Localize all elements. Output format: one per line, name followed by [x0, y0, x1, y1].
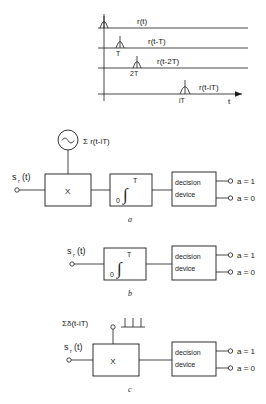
decision-device-label-line1: decision	[175, 179, 201, 186]
trace-signal-label: r(t-iT)	[199, 83, 219, 92]
input-label: s	[64, 342, 69, 352]
timing-trace-0: r(t)	[98, 16, 248, 28]
output-label-1: a = 1	[237, 177, 256, 186]
decision-device-block[interactable]	[172, 172, 216, 206]
input-label: s	[67, 246, 72, 256]
time-axis-label: t	[228, 97, 231, 106]
integrator-lower-limit: 0	[110, 271, 114, 278]
time-axis-arrowhead	[235, 91, 242, 97]
output-terminal-0[interactable]	[228, 270, 232, 274]
input-label-subscript: r	[70, 348, 72, 354]
diagram-b: s r (t) ∫ T 0 decision device a = 1 a = …	[67, 246, 256, 298]
output-label-1: a = 1	[237, 347, 256, 356]
output-label-0: a = 0	[237, 364, 256, 373]
integrator-lower-limit: 0	[116, 197, 120, 204]
subfigure-caption-a: a	[128, 215, 132, 224]
output-label-1: a = 1	[237, 251, 256, 260]
decision-device-label-line2: device	[175, 361, 195, 368]
output-terminal-1[interactable]	[228, 253, 232, 257]
trace-signal-label: r(t-2T)	[157, 57, 180, 66]
trace-tick-label: iT	[179, 97, 186, 104]
output-terminal-0[interactable]	[228, 366, 232, 370]
impulse-train-icon	[121, 318, 145, 327]
diagram-a: Σ r(t-iT) s r (t) X ∫ T 0 decision devic…	[12, 130, 256, 224]
trace-tick-label: 2T	[130, 70, 139, 77]
multiplier-label: X	[110, 357, 116, 366]
output-label-0: a = 0	[237, 268, 256, 277]
decision-device-block[interactable]	[172, 246, 216, 280]
integrator-upper-limit: T	[133, 177, 138, 184]
source-terminal[interactable]	[111, 325, 115, 329]
source-signal-label: Σ r(t-iT)	[83, 137, 110, 146]
input-terminal[interactable]	[70, 262, 74, 266]
timing-trace-2: 2T r(t-2T)	[98, 56, 248, 77]
subfigure-caption-c: c	[128, 385, 132, 394]
output-label-0: a = 0	[237, 194, 256, 203]
multiplier-block[interactable]	[93, 344, 139, 376]
trace-signal-label: r(t-T)	[148, 37, 166, 46]
timing-chart: r(t) T r(t-T) 2T r(t-2T) iT r(t-iT) t	[98, 14, 248, 106]
output-terminal-0[interactable]	[228, 196, 232, 200]
input-terminal[interactable]	[15, 188, 19, 192]
input-label: s	[12, 172, 17, 182]
source-signal-label: Σδ(t-iT)	[62, 319, 89, 328]
input-label-tail: (t)	[77, 246, 86, 256]
decision-device-label-line1: decision	[175, 253, 201, 260]
receiver-block-diagram-figure: r(t) T r(t-T) 2T r(t-2T) iT r(t-iT) t	[0, 0, 266, 404]
output-terminal-1[interactable]	[228, 349, 232, 353]
input-label-subscript: r	[18, 178, 20, 184]
subfigure-caption-b: b	[128, 289, 132, 298]
multiplier-label: X	[65, 187, 71, 196]
trace-tick-label: T	[116, 50, 121, 57]
input-label-subscript: r	[73, 252, 75, 258]
input-label-tail: (t)	[22, 172, 31, 182]
decision-device-label-line2: device	[175, 191, 195, 198]
input-label-tail: (t)	[74, 342, 83, 352]
diagram-c: Σδ(t-iT) s r (t) X decision device a = 1	[62, 318, 256, 394]
decision-device-label-line2: device	[175, 265, 195, 272]
decision-device-block[interactable]	[172, 342, 216, 376]
integrator-upper-limit: T	[127, 251, 132, 258]
decision-device-label-line1: decision	[175, 349, 201, 356]
input-terminal[interactable]	[67, 358, 71, 362]
trace-signal-label: r(t)	[137, 17, 148, 26]
output-terminal-1[interactable]	[228, 179, 232, 183]
timing-trace-3: iT r(t-iT) t	[98, 80, 242, 106]
timing-trace-1: T r(t-T)	[98, 36, 248, 57]
